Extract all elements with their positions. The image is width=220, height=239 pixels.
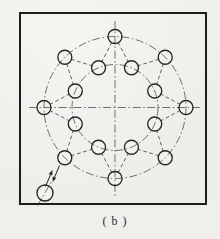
figure-caption: ( b ) bbox=[10, 214, 220, 229]
figure-b-drawing bbox=[0, 0, 220, 239]
move-arrowhead bbox=[49, 170, 53, 176]
move-arrow bbox=[46, 175, 51, 187]
figure-page: ( b ) bbox=[0, 0, 220, 239]
move-arrow bbox=[55, 166, 60, 178]
move-arrowhead bbox=[53, 176, 57, 182]
drawing-canvas bbox=[0, 0, 220, 239]
